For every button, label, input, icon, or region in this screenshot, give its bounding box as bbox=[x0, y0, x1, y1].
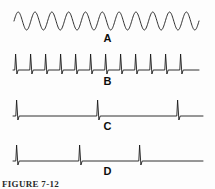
trace-d bbox=[0, 143, 215, 167]
trace-c bbox=[0, 98, 215, 122]
trace-a bbox=[0, 8, 215, 32]
trace-a-label: A bbox=[0, 33, 215, 44]
figure-container: A B C D FIGURE 7-12 bbox=[0, 0, 215, 189]
figure-caption: FIGURE 7-12 bbox=[2, 179, 59, 188]
spike-train-path bbox=[13, 54, 199, 74]
sine-wave-path bbox=[14, 12, 199, 30]
spike-train-path bbox=[13, 145, 203, 165]
trace-c-waveform bbox=[0, 98, 215, 122]
trace-d-waveform bbox=[0, 143, 215, 167]
trace-c-label: C bbox=[0, 121, 215, 132]
trace-b-waveform bbox=[0, 50, 215, 76]
trace-a-waveform bbox=[0, 8, 215, 32]
trace-b-label: B bbox=[0, 76, 215, 87]
trace-d-label: D bbox=[0, 166, 215, 177]
spike-train-path bbox=[13, 100, 203, 120]
trace-b bbox=[0, 50, 215, 76]
